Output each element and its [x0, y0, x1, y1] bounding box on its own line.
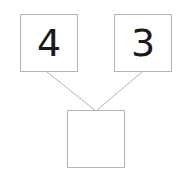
- connector-line-left: [47, 72, 96, 111]
- number-bond-diagram: 4 3: [0, 0, 182, 183]
- connector-line-right: [96, 72, 142, 111]
- addend-box-right[interactable]: 3: [114, 14, 172, 72]
- addend-left-value: 4: [37, 24, 61, 62]
- addend-right-value: 3: [131, 24, 155, 62]
- sum-box-empty[interactable]: [67, 110, 125, 168]
- addend-box-left[interactable]: 4: [20, 14, 78, 72]
